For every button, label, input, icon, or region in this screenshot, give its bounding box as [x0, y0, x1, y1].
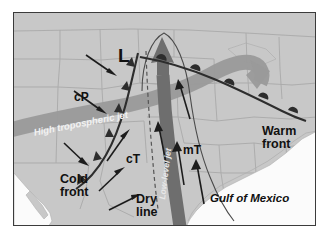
map-graphic	[14, 13, 316, 226]
map-frame: L cP cT mT Cold front Warm front Dry lin…	[13, 12, 316, 226]
weather-map-figure: L cP cT mT Cold front Warm front Dry lin…	[0, 0, 329, 240]
